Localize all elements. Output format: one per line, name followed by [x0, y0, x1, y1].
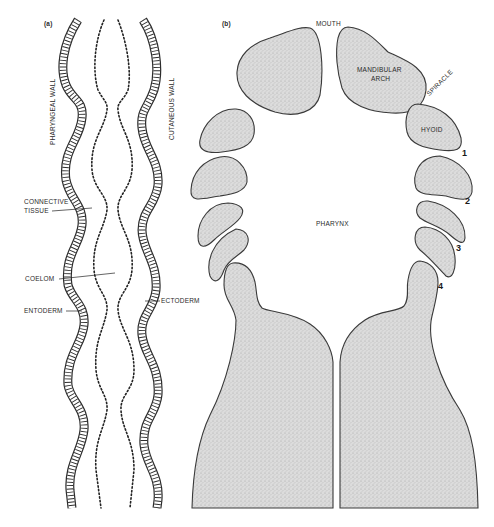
inner-dotted-line-right [118, 20, 134, 508]
connective-tissue-pointer [52, 208, 92, 211]
panel-a-label: (a) [44, 20, 53, 28]
pharynx-label: PHARYNX [316, 220, 349, 228]
inner-dotted-line-left [92, 20, 107, 508]
hyoid-label: HYOID [421, 126, 443, 134]
branchial-arch-left-2 [191, 157, 247, 199]
mandibular-arch-label-line1: MANDIBULAR [357, 66, 402, 74]
entoderm-label: ENTODERM [24, 307, 63, 315]
mandibular-arch-label-line2: ARCH [371, 75, 390, 83]
trunk-right-half [340, 261, 478, 508]
cutaneous-wall-ribbon [142, 20, 159, 508]
connective-tissue-label-line1: CONNECTIVE [24, 198, 69, 206]
mandibular-arch-left [237, 28, 322, 115]
gill-slit-number-3: 3 [456, 244, 461, 252]
branchial-arch-right-1 [415, 156, 472, 199]
pharyngeal-wall-label: PHARYNGEAL WALL [49, 79, 57, 145]
coelom-label: COELOM [25, 275, 54, 283]
trunk-left-half [192, 263, 333, 508]
mouth-label: MOUTH [316, 20, 341, 28]
gill-slit-number-2: 2 [465, 197, 470, 205]
diagram-canvas [0, 0, 494, 527]
panel-b-label: (b) [222, 20, 231, 28]
pharyngeal-wall-ribbon [63, 20, 84, 508]
gill-slit-number-1: 1 [462, 149, 467, 157]
cutaneous-wall-label: CUTANEOUS WALL [168, 78, 176, 140]
connective-tissue-label-line2: TISSUE [24, 207, 49, 215]
gill-slit-number-4: 4 [438, 282, 443, 290]
branchial-arch-left-1 [200, 109, 255, 153]
ectoderm-label: ECTODERM [161, 297, 200, 305]
